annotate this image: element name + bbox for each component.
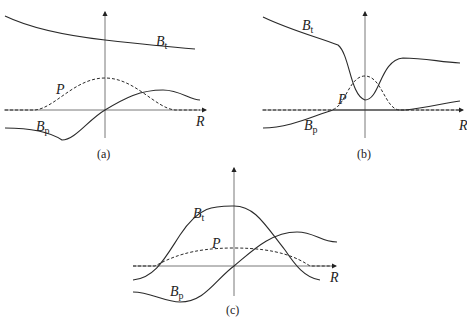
- panel-c: Bt P Bp R (c): [133, 168, 339, 317]
- bt-label-b: Bt: [302, 18, 314, 35]
- bp-label-a: Bp: [36, 119, 50, 136]
- bt-curve-b: [263, 17, 460, 100]
- bp-curve-a: [5, 90, 200, 140]
- bp-curve-c: [133, 232, 337, 302]
- bt-label-c: Bt: [193, 206, 205, 223]
- r-label-c: R: [329, 270, 339, 285]
- caption-c: (c): [226, 303, 239, 317]
- figure-canvas: Bt P Bp R (a) Bt P Bp R (b) Bt P Bp R (c…: [0, 0, 467, 320]
- p-label-a: P: [55, 82, 65, 97]
- bt-curve-c: [133, 206, 320, 280]
- p-label-c: P: [211, 236, 221, 251]
- panel-a: Bt P Bp R (a): [4, 12, 206, 161]
- bt-label-a: Bt: [156, 34, 168, 51]
- p-label-b: P: [337, 92, 347, 107]
- bp-label-b: Bp: [304, 118, 318, 135]
- bp-curve-b: [263, 101, 460, 128]
- bp-label-c: Bp: [170, 284, 184, 301]
- panel-b: Bt P Bp R (b): [262, 12, 467, 161]
- r-label-a: R: [195, 114, 205, 129]
- p-curve-c: [133, 248, 332, 266]
- r-label-b: R: [458, 118, 467, 133]
- p-curve-a: [5, 78, 200, 110]
- caption-b: (b): [357, 147, 371, 161]
- p-curve-b: [263, 76, 460, 110]
- caption-a: (a): [97, 147, 110, 161]
